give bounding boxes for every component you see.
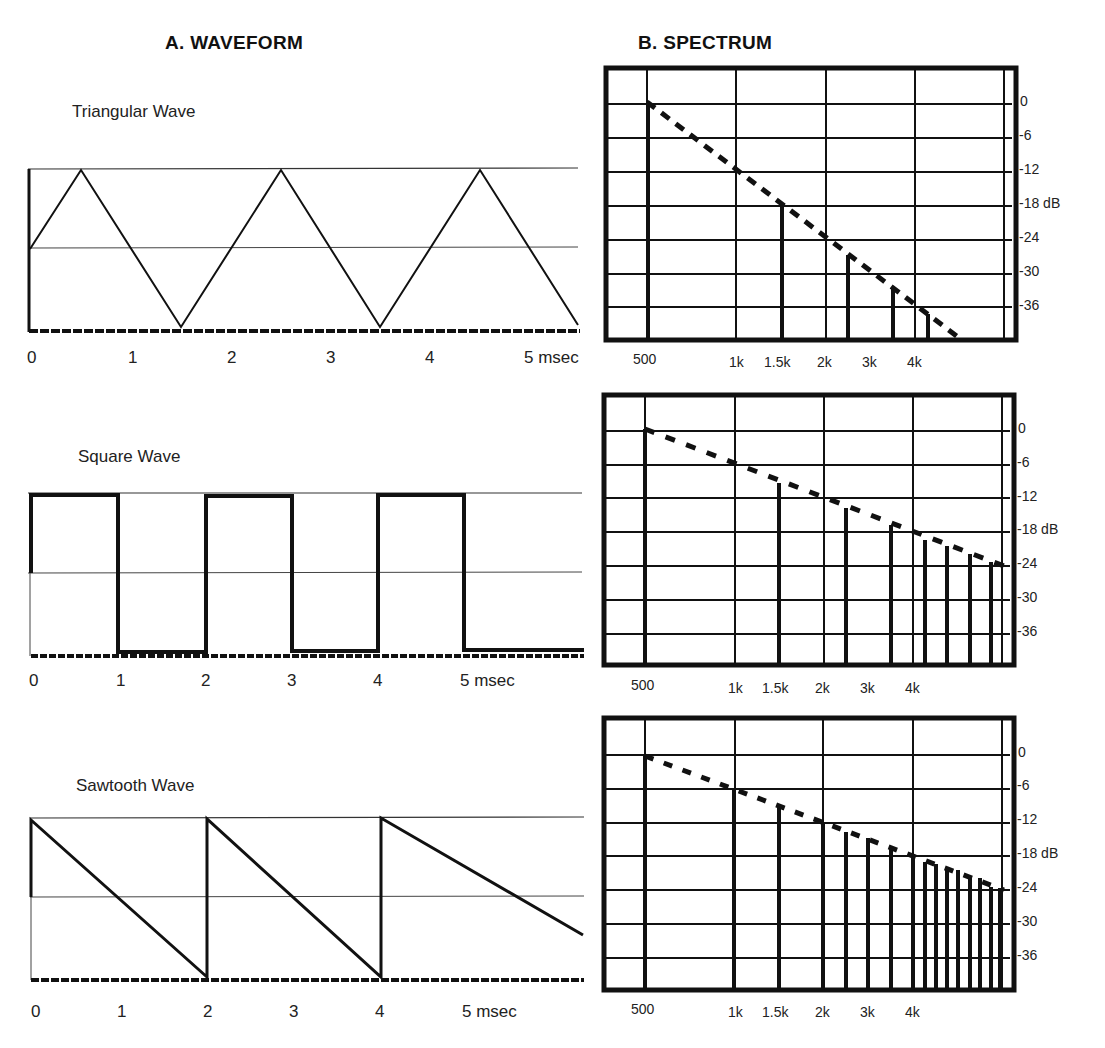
square-spectrum-plot (604, 395, 1014, 665)
square-waveform-plot (28, 493, 584, 656)
sawtooth-waveform-plot (30, 817, 584, 980)
triangular-wave-line (30, 170, 578, 327)
sawtooth-spectrum-plot (604, 718, 1014, 990)
sawtooth-wave-line (31, 818, 583, 977)
triangular-spectrum-plot (606, 68, 1016, 340)
triangular-waveform-plot (28, 168, 580, 332)
charts-canvas (0, 0, 1105, 1048)
square-wave-line (31, 495, 584, 652)
